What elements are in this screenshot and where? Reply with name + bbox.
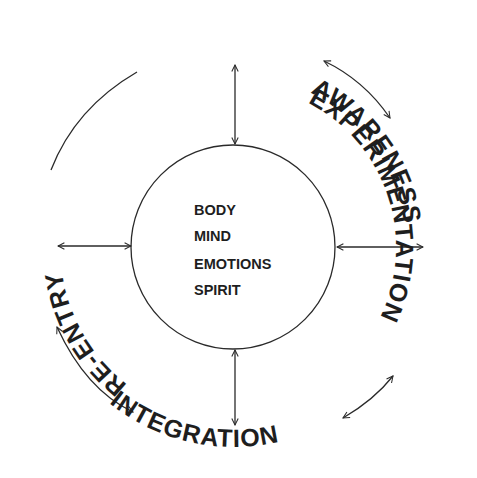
stage-experimentation: EXPERIMENTATION bbox=[305, 83, 419, 328]
core-circle bbox=[131, 145, 335, 349]
core-item-spirit: SPIRIT bbox=[194, 282, 241, 298]
stage-integration: INTEGRATION bbox=[106, 385, 281, 452]
stage-reentry: RE-ENTRY bbox=[39, 270, 131, 402]
core-items: BODY MIND EMOTIONS SPIRIT bbox=[194, 202, 272, 298]
core-item-emotions: EMOTIONS bbox=[194, 256, 272, 272]
cycle-diagram: BODY MIND EMOTIONS SPIRIT AWARENESS EXPE… bbox=[0, 0, 477, 478]
core-item-mind: MIND bbox=[194, 228, 231, 244]
core-item-body: BODY bbox=[194, 202, 236, 218]
arc-reentry-awareness bbox=[51, 72, 137, 170]
arc-experimentation-integration bbox=[343, 376, 393, 418]
